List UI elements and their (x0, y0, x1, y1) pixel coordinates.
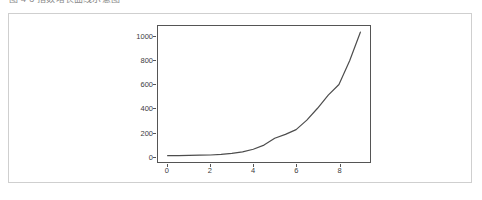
y-tick-label: 800 (107, 56, 153, 65)
figure-caption: 图 4-3 指数增长曲线示意图 (9, 0, 120, 5)
x-tick-mark (167, 164, 168, 167)
figure-card: 02004006008001000 02468 (8, 13, 472, 183)
x-tick-label: 0 (157, 166, 177, 175)
y-tick-mark (153, 60, 156, 61)
plot-area (157, 25, 371, 163)
exponential-curve (168, 32, 361, 156)
line-series-svg (158, 26, 370, 162)
x-tick-label: 6 (286, 166, 306, 175)
y-tick-label: 1000 (107, 32, 153, 41)
x-tick-mark (340, 164, 341, 167)
y-tick-mark (153, 157, 156, 158)
figure-caption-strip: 图 4-3 指数增长曲线示意图 (0, 0, 482, 8)
x-tick-label: 8 (330, 166, 350, 175)
y-tick-label: 0 (107, 152, 153, 161)
y-tick-mark (153, 108, 156, 109)
y-axis: 02004006008001000 (105, 25, 153, 163)
x-axis: 02468 (157, 164, 371, 178)
x-tick-mark (296, 164, 297, 167)
y-tick-label: 400 (107, 104, 153, 113)
chart-figure: 02004006008001000 02468 (105, 16, 377, 182)
y-tick-mark (153, 133, 156, 134)
x-tick-mark (210, 164, 211, 167)
x-tick-mark (253, 164, 254, 167)
x-tick-label: 4 (243, 166, 263, 175)
y-tick-label: 600 (107, 80, 153, 89)
y-tick-label: 200 (107, 128, 153, 137)
y-tick-mark (153, 84, 156, 85)
y-tick-mark (153, 36, 156, 37)
x-tick-label: 2 (200, 166, 220, 175)
